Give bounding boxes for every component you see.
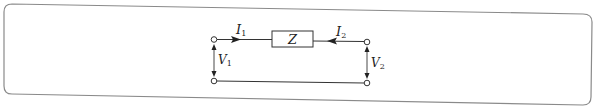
z-label: Z xyxy=(287,32,298,47)
voltage-v2-label: V2 xyxy=(371,56,385,71)
terminal-2-top xyxy=(364,39,370,45)
bottom-wire xyxy=(217,81,364,83)
two-port-diagram: Z I1 I2 V1 V2 xyxy=(0,0,598,106)
voltage-v1-label: V1 xyxy=(218,53,232,68)
current-i2-label: I2 xyxy=(335,24,346,40)
impedance-z: Z xyxy=(272,31,313,47)
terminal-1-top xyxy=(211,37,217,43)
v1-double-arrow-icon xyxy=(212,44,217,77)
current-i1-label: I1 xyxy=(235,22,246,38)
outer-frame xyxy=(4,4,592,105)
terminal-1-bottom xyxy=(211,78,217,84)
terminal-2-bottom xyxy=(364,80,370,86)
v2-double-arrow-icon xyxy=(365,46,370,79)
